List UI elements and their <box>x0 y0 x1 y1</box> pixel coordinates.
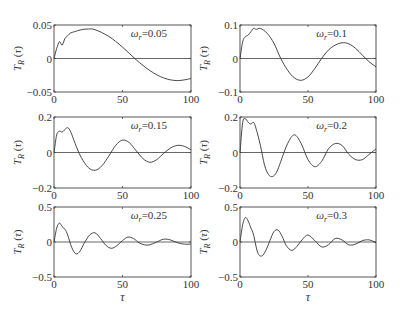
x-tick-label: 100 <box>368 189 385 201</box>
y-axis-label: TR (τ) <box>197 229 212 254</box>
y-tick-label: 0 <box>233 53 239 65</box>
y-tick-label: 0.5 <box>224 201 238 213</box>
data-curve <box>240 217 376 256</box>
y-tick-label: 0 <box>47 147 53 159</box>
x-axis-label: τ <box>306 290 311 304</box>
subplot-1: 050100−0.0500.05TR (τ)ωr=0.05 <box>11 19 200 105</box>
subplot-6: 050100−0.500.5TR (τ)ωr=0.3τ <box>197 201 385 304</box>
x-tick-label: 0 <box>237 93 243 105</box>
y-tick-label: 0.2 <box>38 111 52 123</box>
y-tick-label: −0.05 <box>27 86 53 98</box>
x-tick-label: 100 <box>183 93 200 105</box>
data-curve <box>54 29 191 81</box>
figure-canvas: 050100−0.0500.05TR (τ)ωr=0.05050100−0.10… <box>0 0 406 315</box>
x-tick-label: 50 <box>117 93 129 105</box>
y-tick-label: 0 <box>47 236 53 248</box>
data-curve <box>240 118 376 176</box>
y-axis-label: TR (τ) <box>197 140 212 165</box>
y-axis-label: TR (τ) <box>11 229 26 254</box>
y-tick-label: 0.2 <box>224 111 238 123</box>
data-curve <box>54 223 191 254</box>
x-tick-label: 50 <box>303 278 315 290</box>
y-axis-label: TR (τ) <box>197 46 212 71</box>
omega-annotation: ωr=0.3 <box>316 209 347 224</box>
y-tick-label: 0 <box>47 53 53 65</box>
x-axis-label: τ <box>120 290 125 304</box>
y-tick-label: −0.1 <box>218 86 238 98</box>
x-tick-label: 0 <box>51 189 57 201</box>
y-axis-label: TR (τ) <box>11 46 26 71</box>
y-tick-label: 0 <box>233 236 239 248</box>
x-tick-label: 100 <box>183 189 200 201</box>
y-tick-label: 0.5 <box>38 201 52 213</box>
x-tick-label: 0 <box>237 189 243 201</box>
y-tick-label: −0.5 <box>218 271 238 283</box>
y-tick-label: −0.2 <box>218 182 238 194</box>
x-tick-label: 0 <box>51 93 57 105</box>
omega-annotation: ωr=0.15 <box>131 119 168 134</box>
subplot-5: 050100−0.500.5TR (τ)ωr=0.25τ <box>11 201 200 304</box>
y-axis-label: TR (τ) <box>11 140 26 165</box>
omega-annotation: ωr=0.2 <box>316 119 347 134</box>
omega-annotation: ωr=0.25 <box>131 209 168 224</box>
x-tick-label: 50 <box>117 278 129 290</box>
x-tick-label: 0 <box>51 278 57 290</box>
y-tick-label: −0.5 <box>32 271 52 283</box>
omega-annotation: ωr=0.1 <box>316 27 347 42</box>
y-tick-label: −0.2 <box>32 182 52 194</box>
y-tick-label: 0.05 <box>33 19 53 31</box>
x-tick-label: 50 <box>117 189 129 201</box>
x-tick-label: 50 <box>303 93 315 105</box>
data-curve <box>240 28 376 80</box>
omega-annotation: ωr=0.05 <box>131 27 168 42</box>
x-tick-label: 50 <box>303 189 315 201</box>
y-tick-label: 0 <box>233 147 239 159</box>
x-tick-label: 100 <box>183 278 200 290</box>
subplot-2: 050100−0.100.1TR (τ)ωr=0.1 <box>197 19 385 105</box>
data-curve <box>54 128 191 171</box>
y-tick-label: 0.1 <box>224 19 238 31</box>
subplot-4: 050100−0.200.2TR (τ)ωr=0.2 <box>197 111 385 201</box>
subplot-3: 050100−0.200.2TR (τ)ωr=0.15 <box>11 111 200 201</box>
x-tick-label: 100 <box>368 278 385 290</box>
x-tick-label: 100 <box>368 93 385 105</box>
x-tick-label: 0 <box>237 278 243 290</box>
